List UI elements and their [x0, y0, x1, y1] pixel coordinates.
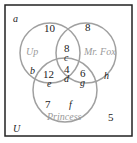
region-up-princess-var: e: [47, 78, 52, 89]
corner-label: a: [13, 13, 18, 24]
region-up-only-value: 10: [44, 22, 56, 34]
set-label-princess: Princess: [46, 111, 82, 122]
venn-diagram: a U Up Mr. Fox Princess 10 b 8 h 8 c 4 d…: [0, 0, 137, 143]
set-label-up: Up: [26, 46, 38, 57]
region-fox-princess-var: g: [80, 77, 85, 88]
region-up-only-var: b: [30, 65, 35, 76]
region-princess-only-value: 7: [45, 98, 51, 110]
region-up-fox-var: c: [64, 52, 69, 63]
universe-label: U: [13, 123, 21, 134]
region-outside-value: 5: [108, 111, 114, 123]
region-fox-only-var: h: [104, 70, 109, 81]
set-label-mr-fox: Mr. Fox: [83, 46, 116, 57]
region-fox-only-value: 8: [85, 21, 91, 33]
